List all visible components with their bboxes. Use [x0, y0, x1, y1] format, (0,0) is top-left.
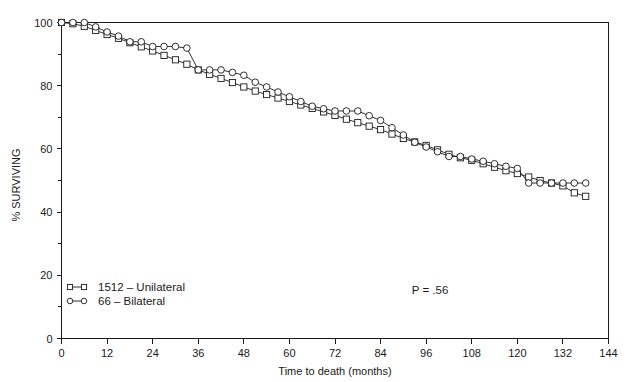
data-point-circle: [377, 117, 384, 124]
x-tick-label-48: 48: [238, 347, 250, 359]
data-point-circle: [58, 19, 65, 26]
data-point-square: [583, 193, 589, 199]
data-point-circle: [138, 38, 145, 45]
data-point-circle: [161, 43, 168, 50]
data-point-square: [355, 120, 361, 126]
x-tick-label-108: 108: [463, 347, 481, 359]
y-tick-label-80: 80: [40, 80, 52, 92]
legend-item-bilateral: 66 – Bilateral: [67, 295, 165, 307]
data-point-circle: [457, 153, 464, 160]
data-point-circle: [195, 67, 202, 74]
data-point-circle: [320, 105, 327, 112]
data-point-circle: [503, 163, 510, 170]
p-value-annotation: P = .56: [412, 284, 449, 296]
data-point-square: [172, 57, 178, 63]
x-tick-label-0: 0: [58, 347, 64, 359]
data-point-circle: [354, 108, 361, 115]
data-point-circle: [127, 38, 134, 45]
x-tick-label-120: 120: [508, 347, 526, 359]
data-point-circle: [389, 124, 396, 131]
data-point-circle: [571, 180, 578, 187]
data-point-circle: [149, 43, 156, 50]
data-point-square: [241, 84, 247, 90]
x-axis-title: Time to death (months): [278, 365, 391, 377]
data-point-circle: [70, 19, 77, 26]
data-point-circle: [537, 180, 544, 187]
data-point-circle: [184, 45, 191, 52]
legend-marker-circle: [67, 298, 73, 304]
x-tick-label-12: 12: [101, 347, 113, 359]
data-point-circle: [423, 144, 430, 151]
data-point-circle: [241, 72, 248, 79]
y-tick-label-20: 20: [40, 269, 52, 281]
data-point-circle: [286, 93, 293, 100]
data-point-square: [275, 95, 281, 101]
x-tick-label-84: 84: [374, 347, 386, 359]
y-axis-ticks: 020406080100: [34, 17, 61, 345]
legend-marker-square: [67, 284, 72, 289]
data-point-circle: [218, 67, 225, 74]
data-point-circle: [172, 43, 179, 50]
data-point-circle: [343, 108, 350, 115]
data-point-circle: [468, 156, 475, 163]
data-point-circle: [252, 79, 259, 86]
data-point-square: [526, 174, 532, 180]
legend: 1512 – Unilateral66 – Bilateral: [67, 281, 185, 307]
x-tick-label-96: 96: [420, 347, 432, 359]
x-tick-label-36: 36: [192, 347, 204, 359]
y-tick-label-60: 60: [40, 143, 52, 155]
x-tick-label-24: 24: [147, 347, 159, 359]
data-point-square: [366, 123, 372, 129]
data-point-circle: [548, 180, 555, 187]
data-point-circle: [332, 108, 339, 115]
legend-marker-square: [81, 284, 86, 289]
data-point-circle: [92, 24, 99, 31]
y-tick-label-100: 100: [34, 17, 52, 29]
data-point-circle: [411, 139, 418, 146]
data-point-square: [252, 88, 258, 94]
data-point-square: [229, 79, 235, 85]
data-point-square: [571, 190, 577, 196]
data-point-square: [184, 61, 190, 67]
data-point-circle: [491, 160, 498, 167]
data-point-circle: [263, 84, 270, 91]
legend-marker-circle: [81, 298, 87, 304]
data-point-circle: [206, 67, 213, 74]
x-tick-label-132: 132: [554, 347, 572, 359]
survival-plot-svg: 020406080100 012243648607284961081201321…: [0, 0, 631, 382]
y-tick-label-0: 0: [46, 333, 52, 345]
data-point-circle: [275, 89, 282, 96]
legend-label: 1512 – Unilateral: [98, 281, 185, 293]
survival-chart: 020406080100 012243648607284961081201321…: [0, 0, 631, 382]
x-axis-ticks: 01224364860728496108120132144: [58, 339, 617, 359]
data-point-circle: [480, 158, 487, 165]
x-tick-label-72: 72: [329, 347, 341, 359]
x-tick-label-60: 60: [283, 347, 295, 359]
data-point-circle: [309, 103, 316, 110]
legend-item-unilateral: 1512 – Unilateral: [67, 281, 185, 293]
data-point-circle: [582, 180, 589, 187]
data-point-circle: [366, 112, 373, 119]
series-layer: [58, 19, 589, 199]
data-point-circle: [81, 19, 88, 26]
data-point-circle: [298, 98, 305, 105]
data-point-square: [343, 116, 349, 122]
legend-label: 66 – Bilateral: [98, 295, 165, 307]
data-point-circle: [115, 33, 122, 40]
data-point-circle: [104, 29, 111, 36]
data-point-circle: [400, 132, 407, 139]
data-point-circle: [229, 69, 236, 76]
data-point-circle: [525, 180, 532, 187]
data-point-circle: [560, 180, 567, 187]
data-point-square: [218, 75, 224, 81]
data-point-square: [377, 127, 383, 133]
y-tick-label-40: 40: [40, 206, 52, 218]
data-point-square: [264, 91, 270, 97]
data-point-circle: [446, 153, 453, 160]
x-tick-label-144: 144: [599, 347, 617, 359]
data-point-circle: [434, 148, 441, 155]
y-axis-title: % SURVIVING: [10, 148, 22, 221]
data-point-square: [161, 52, 167, 58]
data-point-square: [389, 131, 395, 137]
data-point-circle: [514, 165, 521, 172]
